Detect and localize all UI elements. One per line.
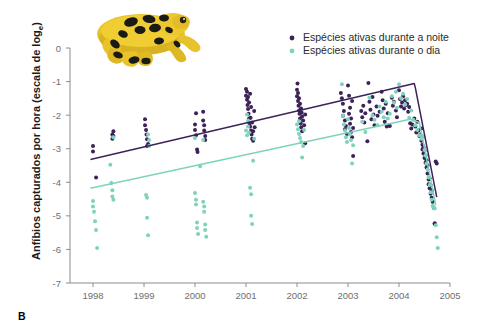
data-point: [201, 110, 205, 114]
data-point: [383, 120, 387, 124]
data-point: [203, 223, 207, 227]
data-point: [95, 246, 99, 250]
data-point: [392, 100, 396, 104]
data-point: [146, 133, 150, 137]
data-point: [417, 133, 421, 137]
data-point: [435, 235, 439, 239]
data-point: [395, 115, 399, 119]
data-point: [193, 128, 197, 132]
data-point: [300, 155, 304, 159]
data-point: [303, 112, 307, 116]
legend-marker-day: [290, 49, 295, 54]
data-point: [359, 109, 363, 113]
y-tick-label: -5: [53, 210, 61, 221]
data-point: [202, 210, 206, 214]
data-point: [436, 246, 440, 250]
data-point: [297, 96, 301, 100]
data-point: [193, 123, 197, 127]
axis-layer: 0-1-2-3-4-5-6-71998199920002001200220032…: [53, 43, 461, 302]
data-point: [92, 210, 96, 214]
y-tick-label: -6: [53, 244, 61, 255]
chart-legend: Espécies ativas durante a noiteEspécies …: [290, 31, 449, 56]
data-point: [394, 90, 398, 94]
data-point: [110, 188, 114, 192]
data-point: [194, 111, 198, 115]
data-point: [430, 198, 434, 202]
data-point: [347, 126, 351, 130]
data-point: [349, 138, 353, 142]
data-point: [351, 126, 355, 130]
data-point: [365, 139, 369, 143]
data-point: [249, 214, 253, 218]
data-point: [194, 202, 198, 206]
data-point: [407, 105, 411, 109]
data-point: [201, 200, 205, 204]
data-point: [252, 109, 256, 113]
data-point: [363, 111, 367, 115]
data-point: [434, 223, 438, 227]
data-point: [94, 176, 98, 180]
data-point: [382, 106, 386, 110]
data-point: [295, 123, 299, 127]
data-point: [247, 100, 251, 104]
data-point: [341, 114, 345, 118]
data-point: [382, 115, 386, 119]
data-point: [435, 161, 439, 165]
legend-label-day: Espécies ativas durante o dia: [303, 44, 440, 56]
data-point: [94, 228, 98, 232]
data-point: [395, 106, 399, 110]
data-point: [202, 123, 206, 127]
data-point: [370, 113, 374, 117]
data-points-layer: [91, 81, 440, 250]
data-point: [360, 115, 364, 119]
data-point: [405, 97, 409, 101]
data-point: [348, 122, 352, 126]
data-point: [297, 132, 301, 136]
data-point: [249, 105, 253, 109]
data-point: [346, 117, 350, 121]
data-point: [248, 186, 252, 190]
data-point: [246, 95, 250, 99]
data-point: [147, 138, 151, 142]
y-tick-label: -3: [53, 143, 61, 154]
x-tick-label: 1998: [82, 290, 103, 301]
data-point: [298, 102, 302, 106]
data-point: [201, 119, 205, 123]
data-point: [146, 233, 150, 237]
y-tick-label: 0: [56, 43, 61, 54]
day-trend: [90, 119, 435, 205]
data-point: [401, 92, 405, 96]
data-point: [298, 136, 302, 140]
legend-marker-night: [290, 36, 295, 41]
data-point: [348, 106, 352, 110]
data-point: [403, 102, 407, 106]
data-point: [302, 123, 306, 127]
data-point: [143, 117, 147, 121]
data-point: [204, 235, 208, 239]
scatter-plot: Anfíbios capturados por hora (escala de …: [0, 0, 484, 327]
data-point: [341, 102, 345, 106]
legend-label-night: Espécies ativas durante a noite: [303, 31, 449, 43]
data-point: [397, 82, 401, 86]
data-point: [251, 159, 255, 163]
data-point: [111, 198, 115, 202]
x-tick-label: 2000: [184, 290, 205, 301]
data-point: [342, 109, 346, 113]
data-point: [351, 154, 355, 158]
data-point: [339, 91, 343, 95]
x-tick-label: 2001: [235, 290, 256, 301]
data-point: [399, 96, 403, 100]
data-point: [195, 226, 199, 230]
data-point: [413, 123, 417, 127]
y-axis-label: Anfíbios capturados por hora (escala de …: [30, 22, 45, 260]
data-point: [350, 161, 354, 165]
series-day: [91, 82, 440, 250]
data-point: [196, 150, 200, 154]
data-point: [367, 96, 371, 100]
y-tick-label: -4: [53, 177, 61, 188]
data-point: [250, 222, 254, 226]
data-point: [378, 104, 382, 108]
data-point: [380, 110, 384, 114]
data-point: [340, 82, 344, 86]
data-point: [376, 114, 380, 118]
